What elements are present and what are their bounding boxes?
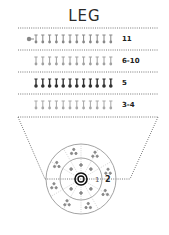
sensor-glyph-icon bbox=[48, 101, 51, 109]
legend-diagram: 1 2 bbox=[0, 0, 169, 235]
sensor-glyph-icon bbox=[102, 101, 105, 109]
sensor-glyph-icon bbox=[96, 35, 99, 43]
sensor-glyph-icon bbox=[82, 79, 86, 88]
sensor-glyph-icon bbox=[62, 35, 65, 43]
sensor-glyph-icon bbox=[109, 79, 113, 88]
sensor-glyph-icon bbox=[75, 79, 79, 88]
sensor-glyph-icon bbox=[95, 79, 99, 88]
sensor-glyph-icon bbox=[96, 101, 99, 109]
sensor-glyph-icon bbox=[41, 79, 45, 88]
sensor-glyph-icon bbox=[89, 35, 92, 43]
sensor-glyph-icon bbox=[34, 57, 37, 65]
sensor-glyph-icon bbox=[62, 101, 65, 109]
sensor-glyph-icon bbox=[41, 57, 44, 65]
sensor-glyph-icon bbox=[68, 101, 71, 109]
sensor-glyph-icon bbox=[89, 57, 92, 65]
sensor-glyph-icon bbox=[89, 79, 93, 88]
sensor-glyph-icon bbox=[48, 79, 52, 88]
sensor-glyph-icon bbox=[55, 35, 58, 43]
sensor-glyph-icon bbox=[89, 101, 92, 109]
sensor-glyph-icon bbox=[96, 57, 99, 65]
row-separators bbox=[18, 28, 158, 94]
sensor-glyph-icon bbox=[109, 57, 112, 65]
sensor-glyph-icon bbox=[82, 57, 85, 65]
sensor-glyph-icon bbox=[68, 35, 71, 43]
sensor-glyph-icon bbox=[41, 101, 44, 109]
sensor-glyph-icon bbox=[75, 57, 78, 65]
sensor-glyph-icon bbox=[68, 79, 72, 88]
sensor-glyph-icon bbox=[62, 57, 65, 65]
sensor-glyph-icon bbox=[82, 35, 85, 43]
sensor-glyph-icon bbox=[82, 101, 85, 109]
sensor-glyph-icon bbox=[61, 79, 65, 88]
zoom-trapezoid bbox=[18, 117, 158, 179]
sensor-glyph-icon bbox=[102, 35, 105, 43]
sensor-glyph-icon bbox=[34, 101, 37, 109]
ring-label-1: 1 bbox=[95, 176, 99, 184]
sensor-glyph-icon bbox=[55, 57, 58, 65]
sensor-glyph-icon bbox=[34, 35, 37, 43]
sensor-glyph-icon bbox=[102, 57, 105, 65]
sensor-glyph-icon bbox=[102, 79, 106, 88]
sensor-glyph-icon bbox=[75, 101, 78, 109]
sensor-glyph-icon bbox=[109, 35, 112, 43]
sensor-glyph-icon bbox=[55, 101, 58, 109]
sensor-glyph-icon bbox=[41, 35, 44, 43]
sensor-glyph-icon bbox=[48, 57, 51, 65]
sensor-glyph-icon bbox=[48, 35, 51, 43]
sensor-glyph-icon bbox=[109, 101, 112, 109]
sensor-glyph-icon bbox=[68, 57, 71, 65]
sensor-glyph-icon bbox=[55, 79, 59, 88]
ring-label-2: 2 bbox=[105, 175, 111, 184]
sensor-glyph-icon bbox=[34, 79, 38, 88]
sensor-glyph-icon bbox=[75, 35, 78, 43]
